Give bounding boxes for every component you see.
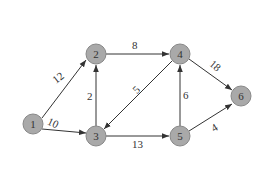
- node-2: 2: [86, 44, 106, 64]
- edge-1-2: [42, 60, 86, 118]
- graph-diagram: 12 10 2 8 5 13 6 18 4 1 2 3: [0, 0, 270, 175]
- edge-label-4-3: 5: [130, 83, 143, 96]
- edge-label-5-4: 6: [183, 89, 189, 101]
- svg-text:5: 5: [177, 130, 183, 142]
- node-6: 6: [231, 86, 251, 106]
- node-1: 1: [23, 114, 43, 134]
- edge-label-1-2: 12: [50, 69, 66, 85]
- svg-text:4: 4: [177, 48, 183, 60]
- edge-label-2-4: 8: [132, 39, 138, 51]
- svg-text:6: 6: [238, 90, 244, 102]
- node-4: 4: [170, 44, 190, 64]
- node-3: 3: [86, 126, 106, 146]
- svg-text:3: 3: [93, 130, 99, 142]
- edge-label-1-3: 10: [46, 115, 61, 131]
- edge-label-3-5: 13: [132, 138, 144, 150]
- edge-label-5-6: 4: [209, 120, 220, 133]
- node-5: 5: [170, 126, 190, 146]
- edge-1-3: [42, 129, 86, 133]
- svg-text:1: 1: [30, 118, 36, 130]
- edge-label-4-6: 18: [207, 57, 224, 74]
- svg-text:2: 2: [93, 48, 99, 60]
- edge-label-3-2: 2: [87, 90, 93, 102]
